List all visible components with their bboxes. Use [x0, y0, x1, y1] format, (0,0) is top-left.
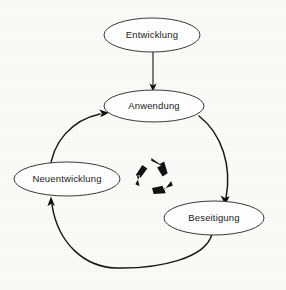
- node-label-anwendung: Anwendung: [128, 100, 180, 111]
- recycle-icon: [135, 158, 172, 194]
- edge-anwendung-to-beseitigung: [199, 116, 230, 205]
- edge-line: [199, 116, 228, 198]
- node-neuentwicklung[interactable]: Neuentwicklung: [14, 162, 120, 196]
- node-label-entwicklung: Entwicklung: [126, 29, 178, 40]
- arrow-head-up: [47, 197, 54, 207]
- node-beseitigung[interactable]: Beseitigung: [164, 201, 264, 235]
- node-label-neuentwicklung: Neuentwicklung: [32, 173, 101, 184]
- node-anwendung[interactable]: Anwendung: [104, 90, 204, 122]
- cycle-diagram-figure: Entwicklung Anwendung Neuentwicklung Bes…: [0, 0, 286, 290]
- node-label-beseitigung: Beseitigung: [188, 212, 239, 223]
- diagram-canvas: Entwicklung Anwendung Neuentwicklung Bes…: [0, 0, 286, 290]
- edge-entwicklung-to-anwendung: [149, 52, 156, 92]
- node-entwicklung[interactable]: Entwicklung: [104, 18, 200, 52]
